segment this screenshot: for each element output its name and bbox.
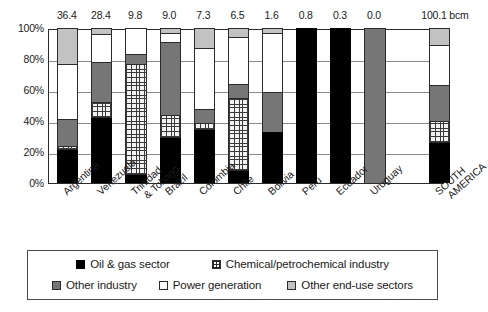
- bar-segment-enduse: [228, 28, 249, 37]
- legend-swatch-oilgas: [76, 260, 85, 269]
- bar-segment-power: [228, 37, 249, 84]
- bar-segment-chem: [228, 98, 249, 171]
- y-tick-label: 40%: [0, 116, 44, 126]
- bar-segment-enduse: [429, 28, 450, 45]
- bar-segment-otherind: [194, 109, 215, 123]
- bar-segment-power: [160, 33, 181, 42]
- legend-item[interactable]: Power generation: [159, 279, 262, 291]
- legend-item[interactable]: Other industry: [52, 279, 137, 291]
- bar-segment-otherind: [91, 62, 112, 102]
- legend-item[interactable]: Chemical/petrochemical industry: [212, 258, 389, 270]
- legend-label: Chemical/petrochemical industry: [226, 258, 389, 270]
- bar-segment-otherind: [364, 28, 385, 183]
- legend-swatch-otherind: [52, 281, 61, 290]
- bar-segment-chem: [429, 121, 450, 143]
- legend-label: Other industry: [66, 279, 137, 291]
- bar-uruguay: [364, 28, 385, 183]
- y-tick-label: 20%: [0, 147, 44, 157]
- bar-segment-oilgas: [330, 28, 351, 183]
- bar-south-america: [429, 28, 450, 183]
- bar-segment-otherind: [57, 119, 78, 145]
- bar-segment-power: [262, 33, 283, 92]
- top-value-label: 100.1 bcm: [410, 10, 480, 21]
- bar-segment-otherind: [228, 84, 249, 98]
- bar-segment-power: [429, 45, 450, 85]
- bar-segment-power: [91, 34, 112, 62]
- bar-segment-enduse: [57, 28, 78, 64]
- bar-segment-oilgas: [296, 28, 317, 183]
- bar-segment-otherind: [160, 42, 181, 115]
- y-tick-label: 60%: [0, 85, 44, 95]
- bar-segment-power: [125, 28, 146, 54]
- bar-segment-otherind: [262, 92, 283, 132]
- bar-segment-power: [194, 48, 215, 108]
- legend-swatch-chem: [212, 260, 221, 269]
- y-tick-label: 80%: [0, 54, 44, 64]
- bar-colombia: [194, 28, 215, 183]
- legend-row-2: Other industryPower generationOther end-…: [28, 279, 437, 291]
- legend-item[interactable]: Other end-use sectors: [287, 279, 413, 291]
- legend-label: Other end-use sectors: [301, 279, 413, 291]
- bar-segment-power: [57, 64, 78, 120]
- y-tick-label: 0%: [0, 178, 44, 188]
- legend: Oil & gas sectorChemical/petrochemical i…: [27, 250, 438, 300]
- bar-bolivia: [262, 28, 283, 183]
- bar-ecuador: [330, 28, 351, 183]
- bar-peru: [296, 28, 317, 183]
- bar-segment-chem: [160, 115, 181, 138]
- bar-argentina: [57, 28, 78, 183]
- bar-chile: [228, 28, 249, 183]
- y-tick-label: 100%: [0, 23, 44, 33]
- top-value-label: 0.0: [351, 10, 397, 21]
- legend-row-1: Oil & gas sectorChemical/petrochemical i…: [28, 258, 437, 270]
- bar-segment-otherind: [429, 85, 450, 121]
- bar-segment-enduse: [194, 28, 215, 48]
- legend-swatch-enduse: [287, 281, 296, 290]
- legend-item[interactable]: Oil & gas sector: [76, 258, 170, 270]
- bar-segment-chem: [194, 123, 215, 131]
- bar-segment-chem: [91, 102, 112, 118]
- legend-label: Power generation: [173, 279, 262, 291]
- bar-segment-otherind: [125, 54, 146, 63]
- plot-area: [48, 29, 444, 184]
- legend-swatch-power: [159, 281, 168, 290]
- legend-label: Oil & gas sector: [90, 258, 170, 270]
